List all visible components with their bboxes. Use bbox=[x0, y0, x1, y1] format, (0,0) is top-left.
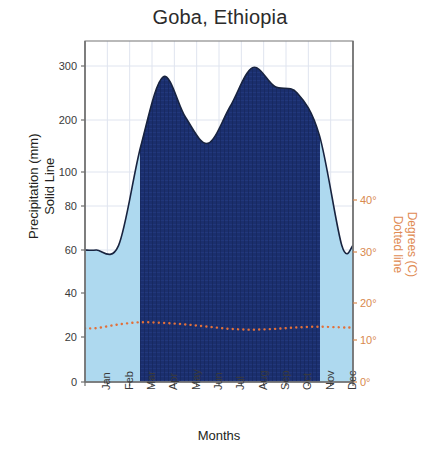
y-axis-right-tick-label: 40° bbox=[360, 194, 390, 206]
x-axis-tick-label: Apr bbox=[167, 373, 179, 390]
y-axis-right-tick-label: 10° bbox=[360, 334, 390, 346]
y-axis-left-tick-label: 60 bbox=[43, 244, 77, 256]
y-axis-left-tick-label: 0 bbox=[43, 376, 77, 388]
x-axis-tick-label: May bbox=[190, 369, 202, 390]
x-axis-tick-label: Oct bbox=[301, 373, 313, 390]
x-axis-tick-label: Mar bbox=[145, 371, 157, 390]
x-axis-tick-label: Dec bbox=[346, 370, 358, 390]
x-axis-tick-label: Jan bbox=[100, 372, 112, 390]
y-axis-right-tick-label: 20° bbox=[360, 297, 390, 309]
y-axis-left-tick-label: 300 bbox=[43, 60, 77, 72]
x-axis-tick-label: Sep bbox=[279, 370, 291, 390]
y-axis-right-tick-label: 0° bbox=[360, 376, 390, 388]
x-axis-tick-label: Aug bbox=[257, 370, 269, 390]
axis-tick-labels: 0204060801002003000°10°20°30°40°JanFebMa… bbox=[0, 0, 440, 458]
y-axis-left-tick-label: 40 bbox=[43, 287, 77, 299]
y-axis-right-tick-label: 30° bbox=[360, 246, 390, 258]
y-axis-left-tick-label: 80 bbox=[43, 200, 77, 212]
x-axis-tick-label: Jun bbox=[212, 372, 224, 390]
x-axis-tick-label: Nov bbox=[324, 370, 336, 390]
y-axis-left-tick-label: 200 bbox=[43, 114, 77, 126]
y-axis-left-tick-label: 20 bbox=[43, 331, 77, 343]
x-axis-tick-label: Jul bbox=[234, 376, 246, 390]
x-axis-tick-label: Feb bbox=[123, 371, 135, 390]
y-axis-left-tick-label: 100 bbox=[43, 166, 77, 178]
climate-chart-figure: Goba, Ethiopia Precipitation (mm) Solid … bbox=[0, 0, 440, 458]
